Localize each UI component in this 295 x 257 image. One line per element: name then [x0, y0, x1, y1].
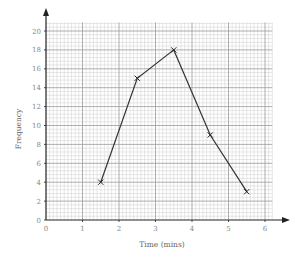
y-tick-label: 20	[32, 28, 41, 36]
x-tick-label: 4	[190, 225, 195, 233]
x-tick-label: 3	[153, 225, 157, 233]
y-tick-label: 8	[37, 141, 41, 149]
x-tick-label: 5	[226, 225, 230, 233]
frequency-polygon-chart: 0123456 02468101214161820 Time (mins) Fr…	[0, 0, 295, 257]
x-axis-title: Time (mins)	[139, 240, 184, 249]
y-tick-label: 16	[32, 65, 41, 73]
y-axis-title: Frequency	[14, 108, 23, 149]
x-tick-label: 1	[80, 225, 84, 233]
y-tick-label: 6	[37, 160, 42, 168]
y-tick-label: 0	[37, 217, 41, 225]
minor-grid	[46, 22, 272, 220]
x-tick-label: 0	[44, 225, 48, 233]
y-tick-label: 14	[32, 84, 41, 92]
y-tick-label: 4	[37, 179, 42, 187]
y-tick-label: 18	[32, 46, 41, 54]
x-axis-arrow-icon	[282, 217, 290, 223]
y-tick-labels: 02468101214161820	[32, 28, 41, 225]
y-tick-label: 10	[32, 122, 41, 130]
x-tick-label: 6	[263, 225, 268, 233]
y-axis-arrow-icon	[43, 8, 49, 16]
x-tick-labels: 0123456	[44, 225, 268, 233]
x-tick-label: 2	[117, 225, 121, 233]
y-tick-label: 12	[32, 103, 41, 111]
y-tick-label: 2	[37, 198, 41, 206]
